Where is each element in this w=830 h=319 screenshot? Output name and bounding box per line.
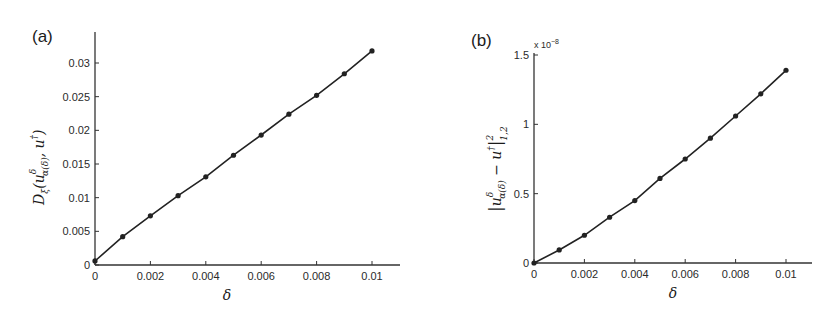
data-point-marker (557, 247, 562, 252)
y-axis-label-b: |uδα(δ) − u†|21,2 (485, 126, 509, 212)
y-tick-label: 0.01 (69, 192, 90, 204)
data-point-marker (92, 258, 97, 263)
y-tick-label: 0 (523, 257, 529, 269)
data-point-marker (369, 48, 374, 53)
data-point-marker (342, 71, 347, 76)
y-tick-label: 1.5 (514, 49, 529, 61)
x-tick-label: 0.01 (775, 268, 796, 280)
x-ticks-a: 00.0020.0040.0060.0080.01 (92, 261, 383, 282)
x-tick-label: 0.004 (621, 268, 649, 280)
chart-panel-b: (b) x 10−8 00.511.5 00.0020.0040.0060.00… (471, 31, 812, 301)
y-axis-label-a: Dξ(uδα(δ), u†) (28, 129, 50, 206)
data-series-b (531, 68, 788, 266)
data-point-marker (708, 136, 713, 141)
data-point-marker (259, 132, 264, 137)
y-tick-label: 0.03 (69, 57, 90, 69)
figure: (a) 00.0050.010.0150.020.0250.03 00.0020… (0, 0, 830, 319)
y-ticks-a: 00.0050.010.0150.020.0250.03 (62, 57, 99, 271)
x-tick-label: 0.002 (137, 270, 165, 282)
y-tick-label: 0.025 (62, 91, 90, 103)
panel-label-a: (a) (32, 27, 53, 46)
x-tick-label: 0.006 (247, 270, 275, 282)
data-point-marker (231, 153, 236, 158)
data-point-marker (607, 215, 612, 220)
data-point-marker (286, 112, 291, 117)
data-point-marker (733, 113, 738, 118)
x-tick-label: 0.01 (361, 270, 382, 282)
data-line (534, 70, 786, 263)
y-tick-label: 1 (523, 118, 529, 130)
y-tick-label: 0 (84, 259, 90, 271)
data-series-a (92, 48, 374, 263)
panel-label-b: (b) (471, 31, 492, 50)
x-tick-label: 0.008 (722, 268, 750, 280)
data-point-marker (176, 193, 181, 198)
svg-text:Dξ(uδα(δ), u†): Dξ(uδα(δ), u†) (28, 129, 50, 206)
y-tick-label: 0.02 (69, 124, 90, 136)
x-tick-label: 0.006 (671, 268, 699, 280)
data-point-marker (120, 234, 125, 239)
data-point-marker (783, 68, 788, 73)
x-tick-label: 0.002 (571, 268, 599, 280)
chart-panel-a: (a) 00.0050.010.0150.020.0250.03 00.0020… (28, 27, 400, 303)
data-point-marker (683, 156, 688, 161)
x-tick-label: 0.004 (192, 270, 220, 282)
data-point-marker (657, 176, 662, 181)
y-multiplier-b: x 10−8 (534, 38, 559, 50)
y-tick-label: 0.005 (62, 225, 90, 237)
x-tick-label: 0 (531, 268, 537, 280)
x-axis-label-a: δ (223, 287, 231, 303)
y-tick-label: 0.5 (514, 188, 529, 200)
x-axis-label-b: δ (669, 285, 677, 301)
data-point-marker (632, 198, 637, 203)
data-point-marker (582, 233, 587, 238)
data-point-marker (758, 91, 763, 96)
data-point-marker (203, 174, 208, 179)
data-point-marker (314, 93, 319, 98)
x-ticks-b: 00.0020.0040.0060.0080.01 (531, 259, 797, 280)
x-tick-label: 0.008 (303, 270, 331, 282)
y-tick-label: 0.015 (62, 158, 90, 170)
data-point-marker (531, 260, 536, 265)
x-tick-label: 0 (92, 270, 98, 282)
svg-text:|uδα(δ) − u†|21,2: |uδα(δ) − u†|21,2 (485, 126, 509, 212)
data-point-marker (148, 213, 153, 218)
